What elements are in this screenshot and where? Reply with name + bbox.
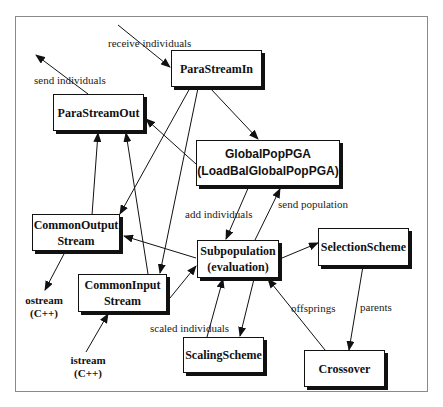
external-istream: istream (C++): [66, 354, 110, 380]
node-common-output-stream: CommonOutput Stream: [32, 214, 120, 251]
external-sublabel: (C++): [66, 367, 110, 380]
node-global-pop-pga: GlobalPopPGA (LoadBalGlobalPopPGA): [196, 140, 340, 186]
edge-parastreamin-globalpoppga: [210, 88, 258, 139]
node-label: CommonInput: [84, 277, 160, 293]
edge-commoninput-subpopulation: [170, 266, 196, 298]
label-receive-individuals: receive individuals: [108, 37, 191, 49]
node-para-stream-in: ParaStreamIn: [171, 50, 262, 87]
edge-commonoutput-ostream: [45, 252, 65, 290]
node-label: ScalingScheme: [185, 347, 262, 363]
edge-istream-commoninput: [86, 314, 108, 352]
edge-send-population: [255, 189, 280, 240]
edge-offsprings: [268, 279, 325, 350]
node-label: ParaStreamOut: [58, 105, 140, 121]
label-send-population: send population: [278, 198, 348, 210]
external-label: istream: [66, 354, 110, 367]
external-ostream: ostream (C++): [22, 294, 66, 320]
node-subpopulation: Subpopulation (evaluation): [197, 240, 279, 278]
node-sublabel: Stream: [57, 233, 94, 249]
class-diagram: receive individuals send individuals add…: [0, 0, 443, 407]
node-sublabel: (LoadBalGlobalPopPGA): [197, 163, 338, 180]
node-para-stream-out: ParaStreamOut: [53, 94, 144, 131]
edge-subpopulation-commonoutput: [124, 236, 196, 258]
node-label: GlobalPopPGA: [225, 146, 311, 163]
label-parents: parents: [360, 301, 392, 313]
edge-subpopulation-scaling: [240, 279, 254, 336]
label-scaled-individuals: scaled individuals: [150, 322, 229, 334]
edge-subpopulation-selection: [282, 243, 318, 258]
label-send-individuals: send individuals: [34, 74, 106, 86]
node-crossover: Crossover: [304, 350, 385, 387]
edge-globalpoppga-parastreamout: [146, 119, 196, 164]
label-add-individuals: add individuals: [185, 208, 253, 220]
node-label: SelectionScheme: [321, 239, 406, 255]
node-common-input-stream: CommonInput Stream: [78, 274, 167, 312]
node-sublabel: Stream: [104, 293, 141, 309]
edge-commonoutput-parastreamout: [92, 133, 98, 215]
node-scaling-scheme: ScalingScheme: [183, 337, 264, 373]
node-selection-scheme: SelectionScheme: [318, 228, 409, 266]
node-label: ParaStreamIn: [180, 61, 253, 77]
node-sublabel: (evaluation): [207, 259, 268, 275]
node-label: Subpopulation: [200, 243, 275, 259]
edge-commoninput-parastreamout: [126, 133, 148, 274]
node-label: CommonOutput: [34, 217, 119, 233]
external-label: ostream: [22, 294, 66, 307]
label-offsprings: offsprings: [291, 302, 335, 314]
edge-parastreamin-commoninput: [160, 88, 198, 273]
external-sublabel: (C++): [22, 307, 66, 320]
node-label: Crossover: [319, 361, 371, 377]
